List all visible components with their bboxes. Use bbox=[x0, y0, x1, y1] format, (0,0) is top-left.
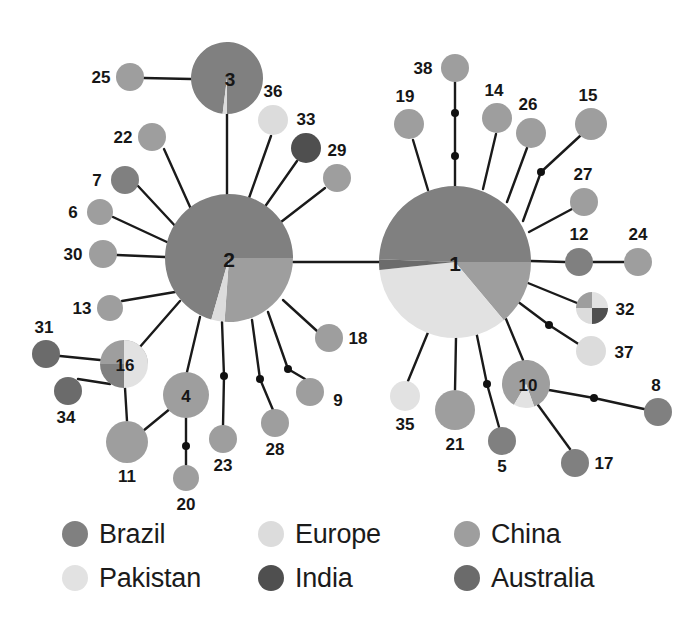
haplotype-node-29[interactable]: 29 bbox=[323, 141, 351, 192]
legend-label-china: China bbox=[491, 519, 561, 550]
legend-swatch-brazil bbox=[62, 521, 88, 547]
haplotype-node-38[interactable]: 38 bbox=[414, 54, 469, 82]
node-label-11: 11 bbox=[118, 467, 136, 486]
haplotype-node-37[interactable]: 37 bbox=[576, 336, 633, 366]
legend-swatch-europe bbox=[258, 521, 284, 547]
haplotype-node-7[interactable]: 7 bbox=[92, 166, 139, 194]
edge-1-27 bbox=[529, 209, 572, 232]
legend-label-brazil: Brazil bbox=[99, 519, 165, 550]
pie-slice-china bbox=[323, 164, 351, 192]
node-label-21: 21 bbox=[446, 435, 465, 454]
haplotype-node-33[interactable]: 33 bbox=[291, 110, 321, 163]
haplotype-node-34[interactable]: 34 bbox=[54, 377, 82, 427]
pie-slice-china bbox=[576, 292, 592, 308]
pie-slice-pakistan bbox=[592, 292, 608, 308]
haplotype-node-14[interactable]: 14 bbox=[482, 81, 512, 133]
haplotype-node-25[interactable]: 25 bbox=[92, 63, 144, 91]
node-label-31: 31 bbox=[35, 318, 54, 337]
haplotype-node-9[interactable]: 9 bbox=[296, 378, 343, 410]
haplotype-node-23[interactable]: 23 bbox=[209, 425, 237, 475]
pie-slice-china bbox=[441, 54, 469, 82]
haplotype-node-8[interactable]: 8 bbox=[644, 376, 672, 426]
haplotype-node-6[interactable]: 6 bbox=[68, 199, 113, 225]
edge-2-9a bbox=[268, 312, 288, 369]
haplotype-node-36[interactable]: 36 bbox=[258, 82, 288, 135]
haplotype-node-5[interactable]: 5 bbox=[488, 427, 516, 476]
legend-swatch-australia bbox=[454, 565, 480, 591]
haplotype-node-30[interactable]: 30 bbox=[64, 240, 117, 268]
pie-slice-china bbox=[89, 240, 117, 268]
node-label-32: 32 bbox=[616, 300, 635, 319]
pie-slice-brazil bbox=[488, 427, 516, 455]
edge-1-14 bbox=[483, 134, 496, 189]
legend-row: BrazilEuropeChina bbox=[0, 512, 693, 556]
median-vector-dot bbox=[220, 372, 228, 380]
haplotype-node-27[interactable]: 27 bbox=[570, 165, 598, 216]
legend-item-pakistan: Pakistan bbox=[62, 563, 258, 594]
legend-item-china: China bbox=[454, 519, 561, 550]
pie-slice-australia bbox=[54, 377, 82, 405]
pie-slice-brazil bbox=[561, 449, 589, 477]
pie-slice-europe bbox=[258, 105, 288, 135]
legend-swatch-china bbox=[454, 521, 480, 547]
haplotype-node-16[interactable]: 16 bbox=[100, 340, 148, 388]
edge-2-23b bbox=[223, 376, 224, 426]
node-label-33: 33 bbox=[297, 110, 316, 129]
pie-slice-china bbox=[209, 425, 237, 453]
edge-1-26 bbox=[507, 148, 527, 202]
edge-16-31 bbox=[60, 356, 100, 360]
haplotype-node-15[interactable]: 15 bbox=[575, 86, 607, 140]
node-label-35: 35 bbox=[396, 415, 415, 434]
node-label-20: 20 bbox=[177, 495, 196, 510]
nodes-layer: 1234567891011121314151617181920212223242… bbox=[32, 42, 672, 510]
haplotype-node-17[interactable]: 17 bbox=[561, 449, 613, 477]
legend-swatch-pakistan bbox=[62, 565, 88, 591]
haplotype-node-20[interactable]: 20 bbox=[173, 465, 199, 510]
node-label-29: 29 bbox=[328, 141, 347, 160]
haplotype-node-28[interactable]: 28 bbox=[261, 409, 289, 459]
haplotype-node-22[interactable]: 22 bbox=[114, 123, 166, 151]
node-label-34: 34 bbox=[57, 408, 76, 427]
pie-slice-pakistan bbox=[390, 381, 420, 411]
node-label-37: 37 bbox=[615, 343, 634, 362]
haplotype-node-10[interactable]: 10 bbox=[502, 360, 550, 408]
edge-2-7 bbox=[138, 186, 178, 229]
node-label-17: 17 bbox=[595, 454, 614, 473]
legend-item-australia: Australia bbox=[454, 563, 594, 594]
haplotype-node-32[interactable]: 32 bbox=[576, 292, 634, 324]
haplotype-node-21[interactable]: 21 bbox=[435, 390, 475, 454]
edge-1-37a bbox=[517, 301, 549, 325]
edge-2-13 bbox=[122, 292, 175, 301]
haplotype-node-1[interactable]: 1 bbox=[379, 186, 531, 338]
haplotype-node-26[interactable]: 26 bbox=[516, 95, 546, 148]
node-label-24: 24 bbox=[629, 225, 648, 244]
pie-slice-australia bbox=[32, 340, 60, 368]
haplotype-node-35[interactable]: 35 bbox=[390, 381, 420, 434]
node-label-18: 18 bbox=[349, 329, 368, 348]
legend-item-europe: Europe bbox=[258, 519, 454, 550]
haplotype-node-18[interactable]: 18 bbox=[315, 324, 367, 352]
edge-1-10a bbox=[506, 319, 523, 360]
edge-1-35 bbox=[408, 330, 429, 381]
haplotype-node-3[interactable]: 3 bbox=[191, 42, 263, 114]
edge-2-29 bbox=[281, 188, 325, 222]
haplotype-node-12[interactable]: 12 bbox=[565, 225, 593, 276]
haplotype-node-2[interactable]: 2 bbox=[165, 194, 293, 322]
edge-2-28a bbox=[252, 320, 260, 379]
haplotype-node-13[interactable]: 13 bbox=[73, 295, 123, 321]
haplotype-node-11[interactable]: 11 bbox=[106, 421, 148, 486]
edge-2-30 bbox=[117, 255, 165, 257]
node-label-3: 3 bbox=[225, 69, 236, 90]
node-label-2: 2 bbox=[223, 248, 235, 271]
median-vector-dot bbox=[590, 394, 598, 402]
node-label-27: 27 bbox=[574, 165, 593, 184]
pie-slice-china bbox=[482, 103, 512, 133]
edge-10-8a bbox=[549, 390, 594, 398]
pie-slice-china bbox=[296, 378, 324, 406]
pie-slice-china bbox=[570, 188, 598, 216]
haplotype-node-24[interactable]: 24 bbox=[624, 225, 652, 276]
haplotype-node-19[interactable]: 19 bbox=[394, 87, 424, 139]
haplotype-node-4[interactable]: 4 bbox=[163, 372, 209, 418]
haplotype-node-31[interactable]: 31 bbox=[32, 318, 60, 368]
pie-slice-china bbox=[138, 123, 166, 151]
